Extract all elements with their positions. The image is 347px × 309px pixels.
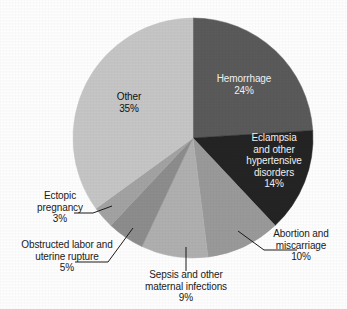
slice-label-other: Other 35% [86,91,172,114]
pie-chart-figure: Hemorrhage 24% Eclampsia and other hyper… [0,0,347,309]
slice-label-obstructed-labor: Obstructed labor and uterine rupture 5% [0,239,138,274]
slice-label-abortion-miscarriage: Abortion and miscarriage 10% [256,228,346,263]
slice-label-sepsis: Sepsis and other maternal infections 9% [122,269,250,304]
slice-label-ectopic-pregnancy: Ectopic pregnancy 3% [14,190,106,225]
slice-label-hemorrhage: Hemorrhage 24% [196,73,292,96]
slice-label-eclampsia: Eclampsia and other hypertensive disorde… [222,132,326,190]
